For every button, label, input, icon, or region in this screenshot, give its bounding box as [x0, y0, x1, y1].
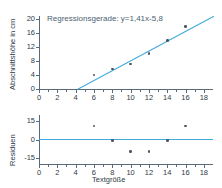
x-axis-minor-tick — [140, 165, 141, 167]
y-axis-tick — [36, 121, 39, 122]
x-axis-tick-label: 4 — [67, 169, 85, 177]
y-axis-tick — [36, 47, 39, 48]
x-axis-tick-label: 14 — [158, 169, 176, 177]
y-axis-tick — [36, 19, 39, 20]
x-axis-tick-label: 4 — [67, 94, 85, 102]
y-axis-tick — [36, 89, 39, 90]
data-point — [148, 150, 151, 153]
x-axis-minor-tick — [176, 90, 177, 92]
y-axis-tick-label: 16 — [14, 29, 35, 37]
y-axis-line — [39, 16, 40, 89]
y-axis-tick-label: 4 — [14, 71, 35, 79]
x-axis-tick-label: 0 — [30, 94, 48, 102]
data-point — [93, 125, 96, 128]
residual-panel: Residuen Textgröße 024681012141618150-15 — [0, 104, 222, 188]
x-axis-tick-label: 12 — [140, 94, 158, 102]
data-point — [184, 125, 187, 128]
y-axis-tick-label: 20 — [14, 15, 35, 23]
y-axis-tick-label: 0 — [14, 136, 35, 144]
data-point — [129, 150, 132, 153]
x-axis-tick-label: 2 — [48, 169, 66, 177]
x-axis-minor-tick — [140, 90, 141, 92]
scatter-regression-panel: Abschnittshöhe in cm Regressionsgerade: … — [0, 0, 222, 104]
x-axis-minor-tick — [158, 165, 159, 167]
figure-root: Abschnittshöhe in cm Regressionsgerade: … — [0, 0, 222, 188]
data-point — [148, 52, 151, 55]
x-axis-minor-tick — [66, 165, 67, 167]
x-axis-minor-tick — [195, 165, 196, 167]
x-axis-minor-tick — [48, 165, 49, 167]
x-axis-minor-tick — [176, 165, 177, 167]
data-point — [166, 39, 169, 42]
x-axis-tick-label: 10 — [122, 94, 140, 102]
x-axis-tick-label: 8 — [103, 169, 121, 177]
x-axis-tick-label: 8 — [103, 94, 121, 102]
x-axis-minor-tick — [195, 90, 196, 92]
x-axis-minor-tick — [66, 90, 67, 92]
y-axis-tick-label: 12 — [14, 43, 35, 51]
x-axis-tick-label: 18 — [195, 169, 213, 177]
x-axis-minor-tick — [121, 165, 122, 167]
x-axis-minor-tick — [48, 90, 49, 92]
x-axis-minor-tick — [158, 90, 159, 92]
regression-line — [77, 16, 214, 90]
x-axis-tick-label: 6 — [85, 94, 103, 102]
x-axis-minor-tick — [85, 165, 86, 167]
x-axis-tick-label: 10 — [122, 169, 140, 177]
y-axis-tick-label: 15 — [14, 117, 35, 125]
data-point — [166, 139, 169, 142]
x-axis-tick-label: 18 — [195, 94, 213, 102]
y-axis-tick — [36, 75, 39, 76]
x-axis-tick-label: 2 — [48, 94, 66, 102]
x-axis-line — [39, 89, 213, 90]
data-point — [184, 25, 187, 28]
data-point — [111, 139, 114, 142]
x-axis-minor-tick — [103, 90, 104, 92]
x-axis-tick-label: 0 — [30, 169, 48, 177]
x-axis-minor-tick — [121, 90, 122, 92]
x-axis-line — [39, 164, 213, 165]
scatter-plot-area: 024681012141618048121620 — [0, 0, 222, 104]
y-axis-tick — [36, 61, 39, 62]
y-axis-tick — [36, 158, 39, 159]
residual-plot-area: 024681012141618150-15 — [0, 104, 222, 188]
x-axis-tick-label: 12 — [140, 169, 158, 177]
x-axis-tick-label: 16 — [177, 169, 195, 177]
x-axis-minor-tick — [85, 90, 86, 92]
y-axis-tick-label: 0 — [14, 85, 35, 93]
y-axis-tick-label: 8 — [14, 57, 35, 65]
x-axis-tick-label: 16 — [177, 94, 195, 102]
x-axis-minor-tick — [103, 165, 104, 167]
data-point — [93, 74, 96, 77]
data-point — [129, 63, 132, 66]
x-axis-tick-label: 14 — [158, 94, 176, 102]
x-axis-tick-label: 6 — [85, 169, 103, 177]
zero-reference-line — [39, 139, 213, 140]
y-axis-tick — [36, 33, 39, 34]
y-axis-tick-label: -15 — [14, 154, 35, 162]
